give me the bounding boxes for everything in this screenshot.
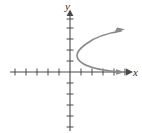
curve-lower-arrowhead [116,69,125,75]
y-axis-group [67,10,74,132]
figure-container: x y [0,0,142,133]
curve-upper-arrowhead [114,28,125,34]
x-axis-arrowhead [126,69,133,76]
parabola-curve [77,31,122,72]
coordinate-plane-chart: x y [0,0,142,133]
y-axis-label: y [64,0,70,12]
x-axis-label: x [132,66,138,78]
parabola-curve-group [77,28,125,75]
